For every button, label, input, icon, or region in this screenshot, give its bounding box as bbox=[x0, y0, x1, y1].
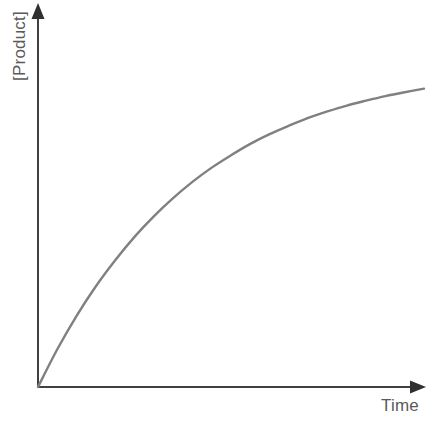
y-axis-label: [Product] bbox=[0, 0, 40, 92]
product-vs-time-chart: [Product] Time bbox=[0, 0, 438, 430]
plot-area bbox=[0, 0, 438, 430]
product-curve bbox=[38, 89, 424, 387]
x-axis-label: Time bbox=[381, 396, 419, 416]
x-axis-arrowhead bbox=[410, 381, 426, 394]
y-axis-label-text: [Product] bbox=[10, 11, 30, 81]
